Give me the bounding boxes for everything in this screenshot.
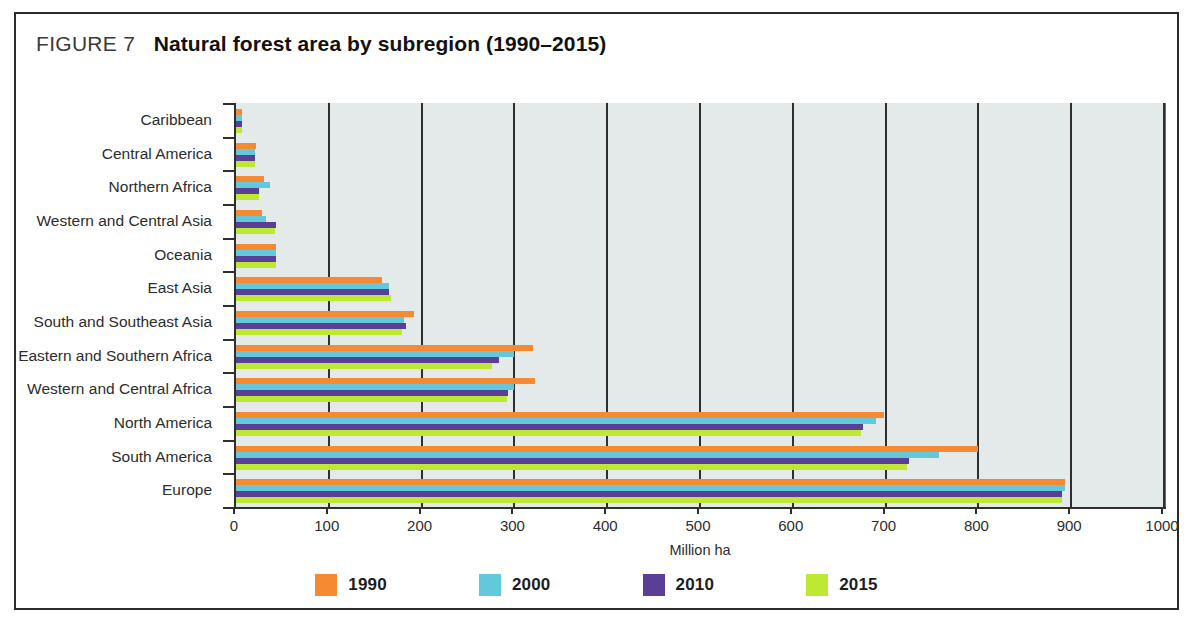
x-axis-line bbox=[234, 507, 1166, 509]
y-tick bbox=[223, 170, 234, 172]
y-axis-label-north-america: North America bbox=[114, 414, 212, 432]
x-tick-500 bbox=[697, 507, 699, 514]
legend-label-2010: 2010 bbox=[676, 575, 715, 595]
x-tick-100 bbox=[326, 507, 328, 514]
bar-2015-western-and-central-asia bbox=[236, 228, 275, 234]
legend-swatch-2000 bbox=[479, 574, 501, 596]
x-tick-label-0: 0 bbox=[230, 517, 238, 534]
legend-swatch-2010 bbox=[643, 574, 665, 596]
x-tick-900 bbox=[1068, 507, 1070, 514]
x-tick-800 bbox=[975, 507, 977, 514]
bar-2015-europe bbox=[236, 497, 1062, 503]
y-tick bbox=[223, 473, 234, 475]
y-tick bbox=[223, 103, 234, 105]
bar-2015-south-and-southeast-asia bbox=[236, 329, 402, 335]
x-tick-200 bbox=[419, 507, 421, 514]
gridline-1000 bbox=[1163, 103, 1165, 507]
legend-label-2000: 2000 bbox=[512, 575, 551, 595]
x-tick-label-900: 900 bbox=[1057, 517, 1082, 534]
y-tick bbox=[223, 507, 234, 509]
y-tick bbox=[223, 440, 234, 442]
x-tick-label-100: 100 bbox=[314, 517, 339, 534]
y-axis-labels: CaribbeanCentral AmericaNorthern AfricaW… bbox=[16, 103, 222, 507]
x-tick-label-200: 200 bbox=[407, 517, 432, 534]
legend-swatch-1990 bbox=[315, 574, 337, 596]
legend-item-2000[interactable]: 2000 bbox=[479, 574, 551, 596]
bar-2015-western-and-central-africa bbox=[236, 396, 507, 402]
figure-panel: FIGURE 7 Natural forest area by subregio… bbox=[14, 12, 1179, 610]
bar-2015-northern-africa bbox=[236, 194, 259, 200]
y-axis-label-caribbean: Caribbean bbox=[140, 111, 212, 129]
x-tick-400 bbox=[604, 507, 606, 514]
y-axis-label-central-america: Central America bbox=[102, 145, 212, 163]
figure-number: FIGURE 7 bbox=[36, 32, 135, 55]
bar-2015-east-asia bbox=[236, 295, 391, 301]
y-tick bbox=[223, 372, 234, 374]
x-tick-1000 bbox=[1161, 507, 1163, 514]
legend-item-1990[interactable]: 1990 bbox=[315, 574, 387, 596]
bar-2015-eastern-and-southern-africa bbox=[236, 363, 492, 369]
y-axis-label-south-and-southeast-asia: South and Southeast Asia bbox=[34, 313, 212, 331]
x-tick-label-500: 500 bbox=[685, 517, 710, 534]
legend-swatch-2015 bbox=[806, 574, 828, 596]
y-tick bbox=[223, 137, 234, 139]
y-tick bbox=[223, 238, 234, 240]
y-tick bbox=[223, 406, 234, 408]
plot-area bbox=[234, 103, 1166, 507]
x-axis-title: Million ha bbox=[234, 542, 1166, 558]
bar-2015-oceania bbox=[236, 262, 276, 268]
legend-label-2015: 2015 bbox=[839, 575, 878, 595]
y-axis-label-oceania: Oceania bbox=[154, 246, 212, 264]
y-axis-label-europe: Europe bbox=[162, 481, 212, 499]
legend-item-2015[interactable]: 2015 bbox=[806, 574, 878, 596]
x-tick-label-1000: 1000 bbox=[1145, 517, 1178, 534]
gridline-900 bbox=[1070, 103, 1072, 507]
x-tick-label-400: 400 bbox=[593, 517, 618, 534]
x-tick-label-700: 700 bbox=[871, 517, 896, 534]
y-axis-label-northern-africa: Northern Africa bbox=[109, 178, 212, 196]
y-axis-label-western-and-central-africa: Western and Central Africa bbox=[27, 380, 212, 398]
y-axis-label-east-asia: East Asia bbox=[147, 279, 212, 297]
bar-2015-central-america bbox=[236, 161, 255, 167]
x-tick-300 bbox=[511, 507, 513, 514]
x-tick-700 bbox=[883, 507, 885, 514]
y-tick bbox=[223, 204, 234, 206]
chart-legend: 1990200020102015 bbox=[16, 574, 1177, 596]
bar-2015-south-america bbox=[236, 464, 907, 470]
figure-title: Natural forest area by subregion (1990–2… bbox=[154, 32, 607, 55]
y-tick bbox=[223, 271, 234, 273]
y-tick bbox=[223, 339, 234, 341]
x-tick-label-300: 300 bbox=[500, 517, 525, 534]
x-tick-600 bbox=[790, 507, 792, 514]
legend-label-1990: 1990 bbox=[348, 575, 387, 595]
y-axis-label-eastern-and-southern-africa: Eastern and Southern Africa bbox=[18, 347, 212, 365]
y-tick bbox=[223, 305, 234, 307]
legend-item-2010[interactable]: 2010 bbox=[643, 574, 715, 596]
y-axis-label-south-america: South America bbox=[111, 448, 212, 466]
bar-2015-caribbean bbox=[236, 127, 242, 133]
x-tick-label-600: 600 bbox=[778, 517, 803, 534]
figure-header: FIGURE 7 Natural forest area by subregio… bbox=[36, 32, 606, 56]
y-axis-label-western-and-central-asia: Western and Central Asia bbox=[37, 212, 212, 230]
bar-2015-north-america bbox=[236, 430, 861, 436]
x-tick-label-800: 800 bbox=[964, 517, 989, 534]
